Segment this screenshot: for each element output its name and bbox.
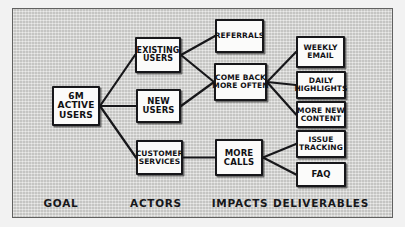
connector-actor-existing-users-to-impact-come-back-more-often: [181, 55, 214, 82]
node-label-line: MORE OFTEN: [212, 82, 268, 90]
node-actor-existing-users[interactable]: EXISTINGUSERS: [135, 37, 181, 73]
node-label-line: REFERRALS: [215, 32, 265, 40]
node-deliverable-issue-tracking[interactable]: ISSUETRACKING: [296, 130, 346, 158]
node-label-line: USERS: [59, 111, 93, 121]
node-impact-come-back-more-often[interactable]: COME BACKMORE OFTEN: [214, 63, 267, 101]
node-deliverable-daily-highlights[interactable]: DAILYHIGHLIGHTS: [296, 71, 346, 99]
connector-impact-come-back-more-often-to-deliverable-daily-highlights: [267, 82, 296, 85]
node-impact-referrals[interactable]: REFERRALS: [215, 19, 264, 53]
connector-goal-6m-active-users-to-actor-existing-users: [100, 55, 135, 106]
node-label-line: CONTENT: [301, 115, 342, 123]
node-label-line: USERS: [143, 106, 175, 115]
diagram-canvas: 6MACTIVEUSERSEXISTINGUSERSNEWUSERSCUSTOM…: [0, 0, 405, 227]
node-label-line: HIGHLIGHTS: [294, 85, 347, 93]
node-label-line: USERS: [143, 55, 173, 63]
connector-impact-more-calls-to-deliverable-issue-tracking: [263, 144, 296, 158]
node-label-line: EMAIL: [307, 52, 333, 60]
connector-actor-existing-users-to-impact-referrals: [181, 36, 215, 55]
node-deliverable-more-new-content[interactable]: MORE NEWCONTENT: [296, 101, 346, 128]
node-label-line: SERVICES: [139, 158, 181, 166]
node-impact-more-calls[interactable]: MORECALLS: [215, 139, 263, 176]
node-label-line: CALLS: [224, 158, 254, 167]
node-deliverable-weekly-email[interactable]: WEEKLYEMAIL: [296, 36, 345, 68]
column-label-deliverables: DELIVERABLES: [251, 197, 391, 209]
node-actor-new-users[interactable]: NEWUSERS: [136, 89, 181, 123]
connector-impact-come-back-more-often-to-deliverable-more-new-content: [267, 82, 296, 115]
node-actor-customer-services[interactable]: CUSTOMERSERVICES: [136, 140, 183, 175]
connector-impact-more-calls-to-deliverable-faq: [263, 158, 296, 175]
node-label-line: TRACKING: [299, 144, 343, 152]
node-label-line: FAQ: [312, 170, 331, 179]
node-deliverable-faq[interactable]: FAQ: [296, 162, 346, 187]
node-goal-6m-active-users[interactable]: 6MACTIVEUSERS: [52, 86, 100, 126]
connector-actor-new-users-to-impact-come-back-more-often: [181, 82, 214, 106]
connector-goal-6m-active-users-to-actor-customer-services: [100, 106, 136, 158]
connector-impact-come-back-more-often-to-deliverable-weekly-email: [267, 52, 296, 82]
